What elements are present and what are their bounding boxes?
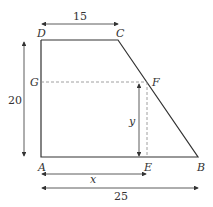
label-F: F [151, 76, 160, 89]
trapezium-diagram: D C G F A E B 15 20 y x 25 [0, 0, 213, 207]
label-B: B [196, 161, 205, 174]
label-x: x [90, 173, 97, 186]
label-20: 20 [8, 94, 22, 107]
label-15: 15 [73, 10, 87, 23]
label-D: D [36, 27, 46, 40]
label-C: C [116, 27, 125, 40]
label-A: A [37, 161, 46, 174]
label-25: 25 [114, 190, 128, 203]
label-y: y [128, 115, 136, 128]
label-E: E [143, 161, 152, 174]
trapezium-outline [41, 40, 198, 157]
label-G: G [30, 76, 39, 89]
